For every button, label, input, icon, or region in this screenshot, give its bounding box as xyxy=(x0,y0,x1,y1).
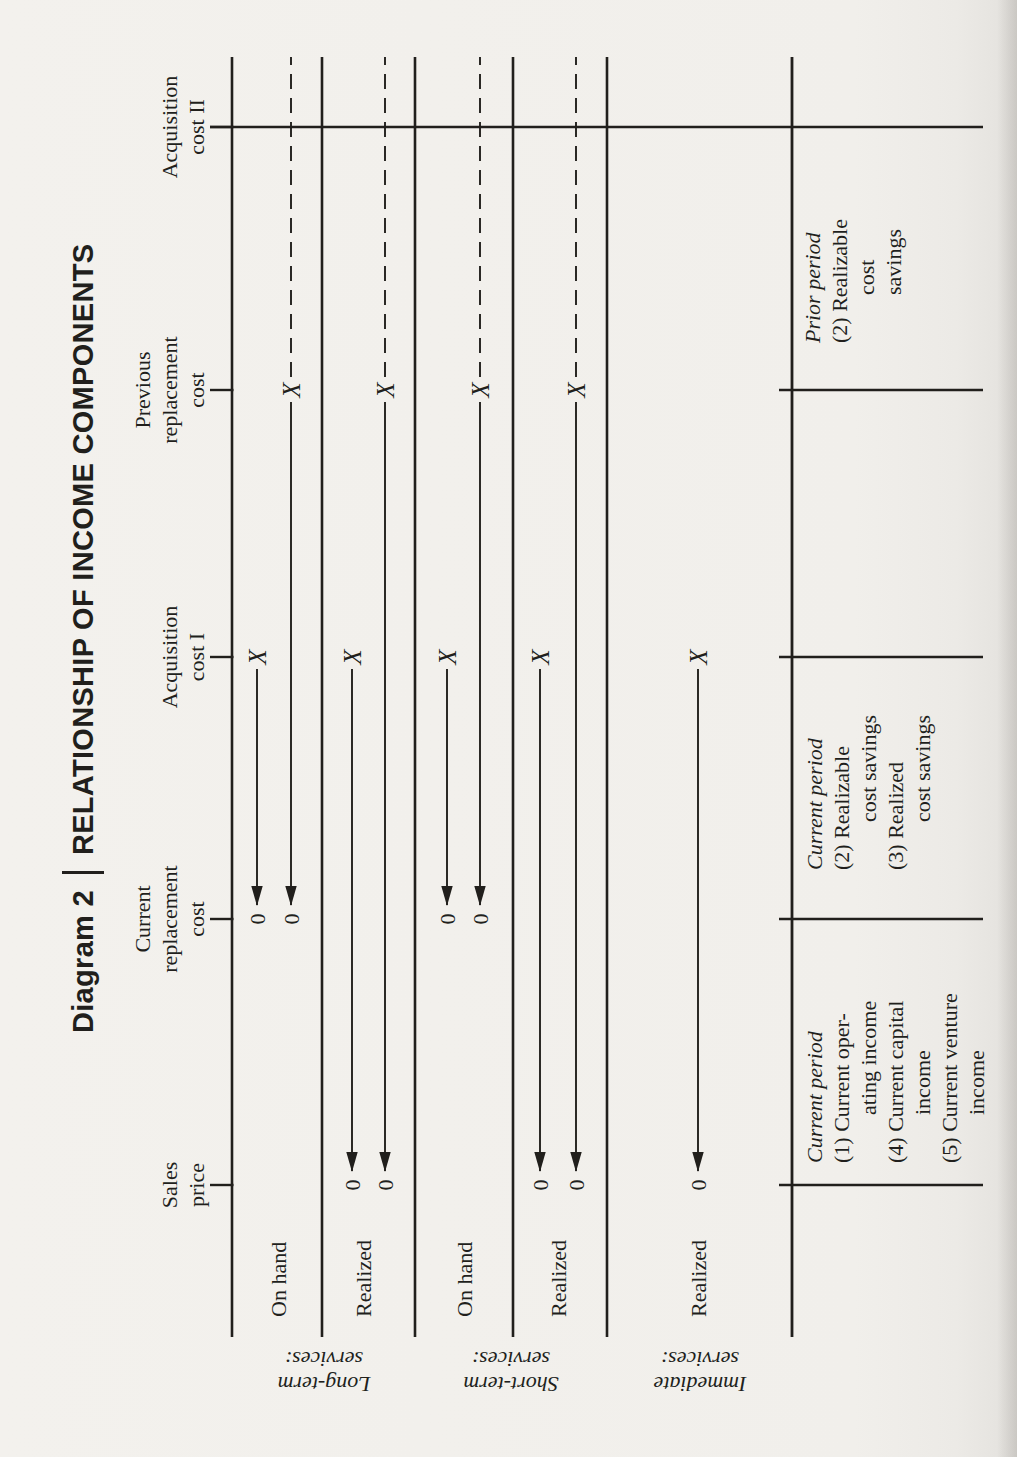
axis-label-acquisition-cost-ii: cost II xyxy=(184,99,209,155)
x-mark: X xyxy=(339,648,366,666)
income-components-diagram: SalespriceCurrentreplacementcostAcquisit… xyxy=(0,0,1017,1457)
axis-point-previous-replacement-cost: Previousreplacementcost xyxy=(130,336,234,444)
axis-label-sales-price: price xyxy=(184,1163,209,1207)
zero-mark: 0 xyxy=(468,914,493,925)
service-label-short-term: Short-term xyxy=(463,1372,558,1397)
arrow-head xyxy=(441,886,452,906)
x-mark: X xyxy=(467,381,494,399)
arrow: X0 xyxy=(527,648,554,1191)
zero-mark: 0 xyxy=(245,914,270,925)
cell-line: cost xyxy=(854,260,879,295)
zero-mark: 0 xyxy=(435,914,460,925)
service-label-immediate: Immediate xyxy=(653,1372,747,1397)
diagram-title: Diagram 2 RELATIONSHIP OF INCOME COMPONE… xyxy=(60,244,106,1033)
arrow: X0 xyxy=(339,648,366,1191)
x-mark: X xyxy=(372,381,399,399)
cell-line: Current period xyxy=(802,737,827,870)
axis-point-acquisition-cost-ii: Acquisitioncost II xyxy=(157,76,983,179)
row-label: Realized xyxy=(351,1240,376,1317)
arrow-head xyxy=(379,1152,390,1172)
cell-line: cost savings xyxy=(910,715,935,822)
zero-mark: 0 xyxy=(373,1180,398,1191)
arrow: X0 xyxy=(467,57,494,925)
service-label-short-term: services: xyxy=(472,1347,550,1372)
arrow-head xyxy=(692,1152,703,1172)
x-mark: X xyxy=(278,381,305,399)
arrow: X0 xyxy=(372,57,399,1191)
zero-mark: 0 xyxy=(564,1180,589,1191)
diagram-title-text: RELATIONSHIP OF INCOME COMPONENTS xyxy=(67,244,100,855)
row-label: Realized xyxy=(686,1240,711,1317)
service-label-long-term: Long-term xyxy=(278,1372,372,1397)
axis-point-current-replacement-cost: Currentreplacementcost xyxy=(130,865,234,973)
cell-line: (5) Current venture xyxy=(937,993,962,1163)
arrow-head xyxy=(251,886,262,906)
axis-point-sales-price: Salesprice xyxy=(157,1162,234,1208)
cell-line: (3) Realized xyxy=(883,762,908,870)
axis-label-current-replacement-cost: Current xyxy=(130,885,155,952)
title-separator-bar xyxy=(62,871,104,874)
zero-mark: 0 xyxy=(279,914,304,925)
arrow: X0 xyxy=(685,648,712,1191)
arrow: X0 xyxy=(563,57,590,1191)
zero-mark: 0 xyxy=(528,1180,553,1191)
table-cell-prior-period-savings: Prior period(2) Realizablecostsavings xyxy=(800,219,906,344)
arrow-head xyxy=(346,1152,357,1172)
arrow-head xyxy=(285,886,296,906)
axis-label-current-replacement-cost: replacement xyxy=(157,865,182,973)
arrow-head xyxy=(534,1152,545,1172)
cell-line: income xyxy=(910,1050,935,1115)
cell-line: (2) Realizable xyxy=(827,219,852,343)
service-label-immediate: services: xyxy=(661,1347,739,1372)
cell-line: (2) Realizable xyxy=(829,746,854,870)
row-label: On hand xyxy=(266,1242,291,1317)
arrow: X0 xyxy=(278,57,305,925)
x-mark: X xyxy=(244,648,271,666)
cell-line: cost savings xyxy=(856,715,881,822)
arrow-head xyxy=(570,1152,581,1172)
zero-mark: 0 xyxy=(686,1180,711,1191)
arrow: X0 xyxy=(434,648,461,925)
service-label-long-term: services: xyxy=(285,1347,363,1372)
zero-mark: 0 xyxy=(340,1180,365,1191)
diagram-stage: Diagram 2 RELATIONSHIP OF INCOME COMPONE… xyxy=(0,0,1017,1457)
table-cell-current-period-savings: Current period(2) Realizablecost savings… xyxy=(802,715,935,870)
cell-line: income xyxy=(964,1050,989,1115)
table-cell-current-period-income: Current period(1) Current oper-ating inc… xyxy=(802,993,989,1163)
axis-point-acquisition-cost-i: Acquisitioncost I xyxy=(157,606,234,709)
section-immediate: Immediateservices:RealizedX0 xyxy=(653,648,747,1397)
arrow: X0 xyxy=(244,648,271,925)
arrow-head xyxy=(474,886,485,906)
cell-line: (1) Current oper- xyxy=(829,1013,854,1163)
diagram-number: Diagram 2 xyxy=(67,890,100,1033)
row-label: On hand xyxy=(452,1242,477,1317)
cell-line: savings xyxy=(881,229,906,295)
x-mark: X xyxy=(563,381,590,399)
cell-line: Current period xyxy=(802,1030,827,1163)
axis-label-previous-replacement-cost: replacement xyxy=(157,336,182,444)
book-page: Diagram 2 RELATIONSHIP OF INCOME COMPONE… xyxy=(0,0,1017,1457)
cell-line: ating income xyxy=(856,1001,881,1115)
x-mark: X xyxy=(434,648,461,666)
axis-label-acquisition-cost-ii: Acquisition xyxy=(157,76,182,179)
axis-label-sales-price: Sales xyxy=(157,1162,182,1208)
cell-line: (4) Current capital xyxy=(883,1001,908,1164)
axis-label-previous-replacement-cost: cost xyxy=(184,372,209,407)
axis-label-acquisition-cost-i: Acquisition xyxy=(157,606,182,709)
row-label: Realized xyxy=(546,1240,571,1317)
axis-label-current-replacement-cost: cost xyxy=(184,901,209,936)
x-mark: X xyxy=(685,648,712,666)
x-mark: X xyxy=(527,648,554,666)
axis-label-acquisition-cost-i: cost I xyxy=(184,633,209,681)
cell-line: Prior period xyxy=(800,231,825,344)
axis-label-previous-replacement-cost: Previous xyxy=(130,352,155,429)
